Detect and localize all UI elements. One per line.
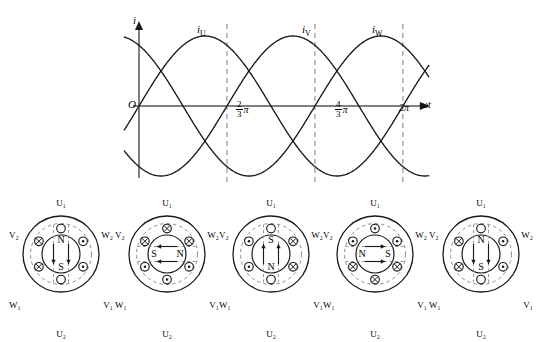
terminal-label-u1: U₁	[218, 198, 324, 208]
stator-rotor-svg	[125, 212, 209, 296]
slot-lower_left-dot	[245, 262, 254, 271]
terminal-label-w2: W₂	[101, 230, 113, 240]
motor-cross-section-row: NSU₁U₂V₂W₂W₁V₁SNU₁U₂V₂W₂W₁V₁SNU₁U₂V₂W₂W₁…	[0, 196, 538, 342]
slot-upper_right-dot	[79, 237, 88, 246]
terminal-label-w1: W₁	[219, 300, 231, 310]
terminal-label-w1: W₁	[429, 300, 441, 310]
terminal-label-u1: U₁	[114, 198, 220, 208]
x-tick-label-2: 43π	[335, 100, 348, 120]
terminal-label-v2: V₂	[115, 230, 125, 240]
motor-diagram-2: SNU₁U₂V₂W₂W₁V₁	[114, 196, 220, 342]
pole-label-top: N	[474, 234, 488, 245]
slot-upper_left-dot	[245, 237, 254, 246]
pole-label-right: S	[381, 248, 395, 259]
chart-axes	[133, 21, 430, 178]
slot-lower_right-cross	[289, 262, 298, 271]
slot-lower_left-dot	[141, 262, 150, 271]
slot-top-empty	[267, 224, 276, 233]
terminal-label-u2: U₂	[428, 329, 534, 339]
slot-top-empty	[477, 224, 486, 233]
pole-label-top: N	[54, 234, 68, 245]
terminal-label-u1: U₁	[8, 198, 114, 208]
slot-lower_right-dot	[79, 262, 88, 271]
x-tick-label-3: 2π	[398, 101, 409, 113]
slot-lower_right-dot	[499, 262, 508, 271]
terminal-label-u1: U₁	[322, 198, 428, 208]
pole-label-left: S	[147, 248, 161, 259]
pole-label-right: N	[173, 248, 187, 259]
slot-lower_left-cross	[35, 262, 44, 271]
terminal-label-u1: U₁	[428, 198, 534, 208]
stator-rotor-svg	[333, 212, 417, 296]
slot-upper_right-dot	[499, 237, 508, 246]
terminal-label-v1: V₁	[523, 300, 533, 310]
slot-top-empty	[57, 224, 66, 233]
slot-bottom-empty	[477, 275, 486, 284]
waveform-svg	[0, 0, 538, 192]
slot-top-cross	[163, 224, 172, 233]
pole-label-left: N	[355, 248, 369, 259]
motor-diagram-4: NSU₁U₂V₂W₂W₁V₁	[322, 196, 428, 342]
curve-label-iw: iW	[372, 23, 383, 38]
x-tick-label-1: 23π	[236, 100, 249, 120]
slot-lower_left-cross	[349, 262, 358, 271]
terminal-label-v2: V₂	[9, 230, 19, 240]
pole-label-bottom: S	[474, 261, 488, 272]
terminal-label-w1: W₁	[115, 300, 127, 310]
pole-label-top: S	[264, 234, 278, 245]
motor-diagram-5: NSU₁U₂V₂W₂W₁V₁	[428, 196, 534, 342]
current-waveform-chart: i O ωt iU iV iW 23π 43π 2π	[0, 0, 538, 192]
slot-upper_right-cross	[185, 237, 194, 246]
slot-upper_right-cross	[289, 237, 298, 246]
slot-lower_left-cross	[455, 262, 464, 271]
terminal-label-v2: V₂	[219, 230, 229, 240]
slot-upper_left-cross	[35, 237, 44, 246]
curve-label-iu: iU	[197, 23, 206, 38]
curve-label-iv: iV	[302, 23, 311, 38]
terminal-label-v1: V₁	[417, 300, 427, 310]
slot-lower_right-dot	[185, 262, 194, 271]
terminal-label-v2: V₂	[323, 230, 333, 240]
origin-label: O	[128, 98, 136, 110]
motor-diagram-1: NSU₁U₂V₂W₂W₁V₁	[8, 196, 114, 342]
terminal-label-u2: U₂	[8, 329, 114, 339]
terminal-label-w1: W₁	[323, 300, 335, 310]
slot-bottom-cross	[371, 275, 380, 284]
slot-upper_left-cross	[141, 237, 150, 246]
terminal-label-v1: V₁	[103, 300, 113, 310]
terminal-label-u2: U₂	[218, 329, 324, 339]
slot-upper_left-cross	[455, 237, 464, 246]
motor-diagram-3: SNU₁U₂V₂W₂W₁V₁	[218, 196, 324, 342]
pole-label-bottom: S	[54, 261, 68, 272]
slot-bottom-empty	[57, 275, 66, 284]
stator-rotor-svg	[229, 212, 313, 296]
terminal-label-w2: W₂	[415, 230, 427, 240]
slot-upper_left-dot	[349, 237, 358, 246]
x-axis-label: ωt	[421, 99, 431, 110]
pole-label-bottom: N	[264, 261, 278, 272]
terminal-label-w1: W₁	[9, 300, 21, 310]
terminal-label-w2: W₂	[521, 230, 533, 240]
y-axis-arrowhead	[135, 21, 143, 30]
terminal-label-v2: V₂	[429, 230, 439, 240]
three-phase-rotating-field-figure: i O ωt iU iV iW 23π 43π 2π NSU₁U₂V₂W₂W₁V…	[0, 0, 538, 342]
slot-upper_right-dot	[393, 237, 402, 246]
stator-rotor-svg	[439, 212, 523, 296]
terminal-label-u2: U₂	[322, 329, 428, 339]
slot-top-dot	[371, 224, 380, 233]
stator-rotor-svg	[19, 212, 103, 296]
slot-bottom-dot	[163, 275, 172, 284]
terminal-label-u2: U₂	[114, 329, 220, 339]
slot-bottom-empty	[267, 275, 276, 284]
y-axis-label: i	[133, 14, 136, 26]
slot-lower_right-cross	[393, 262, 402, 271]
